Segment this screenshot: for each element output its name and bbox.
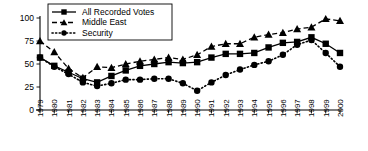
- data-point-marker: [280, 52, 286, 58]
- data-point-marker: [61, 30, 66, 35]
- legend-label: All Recorded Votes: [82, 7, 154, 17]
- data-point-marker: [165, 54, 173, 61]
- data-point-marker: [237, 51, 243, 57]
- y-tick-label: 75: [25, 36, 35, 46]
- y-tick-label: 25: [25, 82, 35, 92]
- data-point-marker: [194, 59, 200, 65]
- x-tick-label: 1989: [179, 99, 188, 117]
- x-tick-label: 1994: [250, 99, 259, 117]
- data-point-marker: [323, 50, 329, 56]
- line-chart: 0255075100 19791980198119821983198419851…: [0, 0, 368, 151]
- data-point-marker: [265, 31, 273, 38]
- data-point-marker: [337, 64, 343, 70]
- chart-container: 0255075100 19791980198119821983198419851…: [0, 0, 368, 151]
- y-tick-label: 100: [20, 13, 34, 23]
- data-point-marker: [308, 37, 314, 43]
- data-point-marker: [137, 76, 143, 82]
- x-tick-label: 1993: [236, 99, 245, 117]
- data-point-marker: [108, 80, 114, 86]
- data-point-marker: [265, 44, 271, 50]
- x-tick-label: 1990: [193, 99, 202, 117]
- data-point-marker: [50, 48, 58, 55]
- data-point-marker: [323, 41, 329, 47]
- x-tick-label: 1988: [165, 99, 174, 117]
- data-point-marker: [251, 62, 257, 68]
- data-point-marker: [208, 54, 214, 60]
- data-point-marker: [194, 87, 200, 93]
- data-point-marker: [223, 72, 229, 78]
- chart-legend: All Recorded VotesMiddle EastSecurity: [48, 4, 172, 40]
- data-point-marker: [108, 73, 114, 79]
- x-tick-label: 1986: [136, 99, 145, 117]
- data-point-marker: [80, 79, 86, 85]
- x-tick-label: 1983: [93, 99, 102, 117]
- data-point-marker: [51, 64, 57, 70]
- x-axis: 1979198019811982198319841985198619871988…: [36, 99, 345, 117]
- data-point-marker: [180, 80, 186, 86]
- x-tick-label: 1987: [150, 99, 159, 117]
- data-point-marker: [265, 58, 271, 64]
- data-point-marker: [123, 67, 129, 73]
- x-tick-label: 1991: [207, 99, 216, 117]
- x-tick-label: 1995: [265, 99, 274, 117]
- x-tick-label: 1996: [279, 99, 288, 117]
- x-tick-label: 1984: [107, 99, 116, 117]
- x-tick-label: 1981: [65, 99, 74, 117]
- data-point-marker: [150, 55, 158, 62]
- legend-label: Security: [82, 28, 113, 38]
- x-tick-label: 1982: [79, 99, 88, 117]
- data-point-marker: [337, 50, 343, 56]
- data-point-marker: [280, 40, 286, 46]
- data-point-marker: [208, 79, 214, 85]
- x-tick-label: 1992: [222, 99, 231, 117]
- data-point-marker: [294, 41, 300, 47]
- x-tick-label: 2000: [336, 99, 345, 117]
- x-tick-label: 1999: [322, 99, 331, 117]
- data-point-marker: [251, 50, 257, 56]
- data-point-marker: [322, 15, 330, 22]
- data-point-marker: [223, 51, 229, 57]
- data-point-marker: [61, 9, 66, 14]
- data-point-marker: [165, 76, 171, 82]
- x-tick-label: 1997: [293, 99, 302, 117]
- y-tick-label: 50: [25, 59, 35, 69]
- x-tick-label: 1998: [307, 99, 316, 117]
- x-tick-label: 1985: [122, 99, 131, 117]
- data-point-marker: [65, 71, 71, 77]
- data-point-marker: [307, 23, 315, 30]
- data-point-marker: [37, 54, 43, 60]
- data-point-marker: [237, 66, 243, 72]
- series-security: [37, 37, 343, 94]
- data-point-marker: [94, 83, 100, 89]
- y-tick-label: 0: [29, 105, 34, 115]
- data-point-marker: [193, 51, 201, 58]
- data-point-marker: [93, 63, 101, 70]
- x-tick-label: 1980: [50, 99, 59, 117]
- data-point-marker: [151, 76, 157, 82]
- x-tick-label: 1979: [36, 99, 45, 117]
- data-point-marker: [123, 76, 129, 82]
- data-point-marker: [279, 29, 287, 36]
- legend-label: Middle East: [82, 17, 127, 27]
